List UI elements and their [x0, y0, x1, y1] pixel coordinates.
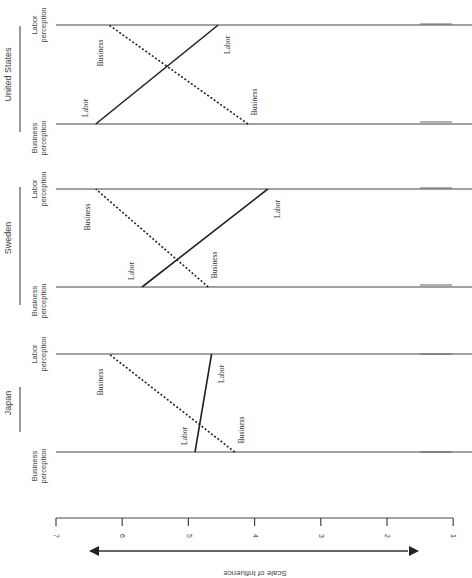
- axis-title: Scale of Influence: [223, 569, 287, 578]
- country-label-united-states: United States: [3, 47, 13, 102]
- business-line-label: Business: [96, 369, 105, 396]
- business-line-label: Business: [83, 204, 92, 231]
- business-perception-label: Business: [30, 451, 39, 482]
- country-label-japan: Japan: [3, 391, 13, 416]
- business-perception-label: Business: [30, 123, 39, 154]
- business-perception-label: perception: [39, 120, 48, 155]
- axis-tick-label: 5: [186, 534, 193, 538]
- figure-canvas: United StatesLaborperceptionBusinessperc…: [0, 0, 472, 578]
- axis-tick-label: 4: [252, 534, 259, 538]
- labor-line-label: Labor: [223, 36, 232, 54]
- business-line-label: Business: [250, 89, 259, 116]
- country-label-sweden: Sweden: [3, 222, 13, 255]
- business-perception-label: Business: [30, 286, 39, 317]
- business-perception-label: perception: [39, 283, 48, 318]
- labor-line: [142, 189, 268, 287]
- labor-line-label: Labor: [217, 365, 226, 383]
- labor-line-label: Labor: [180, 427, 189, 445]
- labor-line: [96, 25, 218, 124]
- labor-line: [195, 354, 212, 452]
- business-line: [96, 189, 209, 287]
- axis-tick-label: 3: [318, 534, 325, 538]
- labor-perception-label: perception: [39, 171, 48, 206]
- business-perception-label: perception: [39, 448, 48, 483]
- arrow-right-icon: [409, 546, 419, 556]
- business-line-label: Business: [210, 252, 219, 279]
- axis-tick-label: 6: [119, 534, 126, 538]
- labor-line-label: Labor: [127, 262, 136, 280]
- business-line-label: Business: [96, 40, 105, 67]
- labor-perception-label: Labor: [30, 344, 39, 364]
- labor-perception-label: perception: [39, 336, 48, 371]
- labor-line-label: Labor: [273, 200, 282, 218]
- axis-tick-label: 7: [53, 534, 60, 538]
- arrow-left-icon: [89, 546, 99, 556]
- axis-tick-label: 2: [384, 534, 391, 538]
- axis-tick-label: 1: [450, 534, 457, 538]
- labor-perception-label: Labor: [30, 15, 39, 35]
- labor-perception-label: Labor: [30, 179, 39, 199]
- labor-perception-label: perception: [39, 7, 48, 42]
- business-line-label: Business: [237, 417, 246, 444]
- labor-line-label: Labor: [81, 99, 90, 117]
